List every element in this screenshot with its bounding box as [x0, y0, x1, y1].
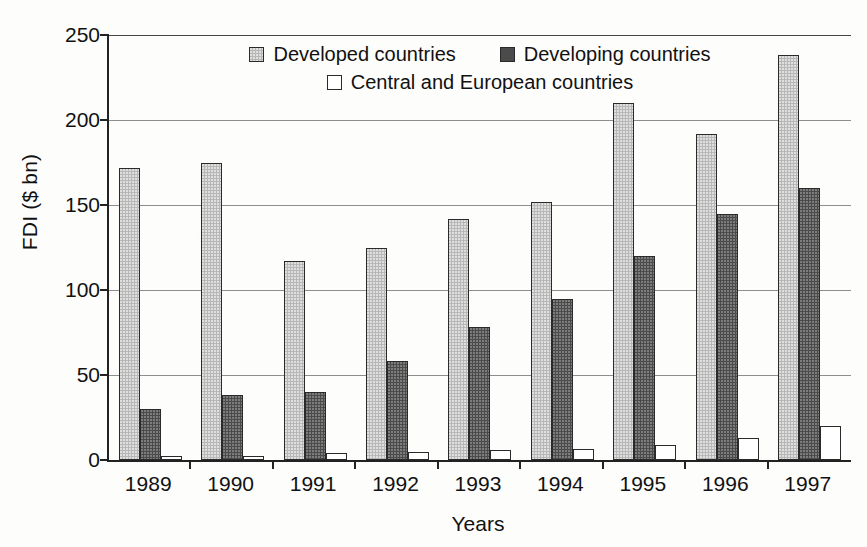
x-axis-tick-label: 1994: [519, 472, 601, 496]
bar-developing-1992: [387, 361, 408, 460]
legend-swatch-developed-icon: [249, 47, 264, 62]
bar-developed-1989: [119, 168, 140, 460]
y-axis-tick-label: 100: [65, 278, 100, 302]
bar-developing-1993: [469, 327, 490, 460]
x-axis-tick-mark: [684, 460, 686, 469]
legend-label: Developed countries: [273, 43, 455, 66]
bar-central-1995: [655, 445, 676, 460]
x-axis-tick-label: 1996: [684, 472, 766, 496]
y-axis-tick-mark: [100, 34, 109, 36]
bar-central-1992: [408, 452, 429, 461]
legend-swatch-central-icon: [327, 75, 342, 90]
bar-developing-1989: [140, 409, 161, 460]
bar-developed-1991: [284, 261, 305, 460]
y-axis-tick-label: 250: [65, 23, 100, 47]
y-axis-tick-label: 150: [65, 193, 100, 217]
bar-developed-1997: [778, 55, 799, 460]
legend-item: Developed countries: [249, 43, 455, 66]
bar-developing-1994: [552, 299, 573, 461]
x-axis-tick-mark: [272, 460, 274, 469]
bar-central-1994: [573, 449, 594, 460]
bar-central-1991: [326, 453, 347, 460]
x-axis-tick-mark: [519, 460, 521, 469]
bar-central-1989: [161, 456, 182, 460]
bar-central-1990: [243, 456, 264, 460]
legend: Developed countriesDeveloping countries …: [109, 43, 851, 99]
x-axis-tick-mark: [767, 460, 769, 469]
bar-central-1996: [738, 438, 759, 460]
y-axis-tick-label: 0: [88, 448, 100, 472]
x-axis-title: Years: [107, 512, 849, 536]
x-axis-tick-label: 1993: [437, 472, 519, 496]
x-axis-tick-label: 1992: [354, 472, 436, 496]
x-axis-tick-labels: 198919901991199219931994199519961997: [107, 472, 849, 496]
bar-developed-1990: [201, 163, 222, 461]
y-axis-tick-mark: [100, 119, 109, 121]
y-axis-tick-mark: [100, 374, 109, 376]
x-axis-tick-mark: [354, 460, 356, 469]
x-axis-tick-mark: [189, 460, 191, 469]
y-axis-title: FDI ($ bn): [18, 102, 42, 302]
y-axis-tick-mark: [100, 459, 109, 461]
x-axis-tick-label: 1990: [189, 472, 271, 496]
bar-developing-1996: [717, 214, 738, 461]
bar-developing-1995: [634, 256, 655, 460]
legend-label: Central and European countries: [351, 71, 633, 94]
bar-developed-1992: [366, 248, 387, 461]
y-axis-tick-label: 200: [65, 108, 100, 132]
bar-central-1997: [820, 426, 841, 460]
bar-developing-1991: [305, 392, 326, 460]
x-axis-tick-label: 1989: [107, 472, 189, 496]
legend-label: Developing countries: [524, 43, 711, 66]
bar-central-1993: [490, 450, 511, 460]
y-axis-tick-mark: [100, 289, 109, 291]
x-axis-tick-label: 1997: [767, 472, 849, 496]
bar-developing-1997: [799, 188, 820, 460]
legend-item: Developing countries: [500, 43, 711, 66]
x-axis-tick-label: 1991: [272, 472, 354, 496]
legend-swatch-developing-icon: [500, 47, 515, 62]
x-axis-tick-label: 1995: [602, 472, 684, 496]
bar-developed-1993: [448, 219, 469, 460]
bar-developed-1994: [531, 202, 552, 460]
y-axis-tick-mark: [100, 204, 109, 206]
legend-row-2: Central and European countries: [109, 71, 851, 94]
legend-item: Central and European countries: [327, 71, 633, 94]
plot-area: 050100150200250 Developed countriesDevel…: [107, 35, 851, 462]
bar-developed-1995: [613, 103, 634, 460]
y-axis-tick-label: 50: [77, 363, 100, 387]
legend-row-1: Developed countriesDeveloping countries: [109, 43, 851, 66]
fdi-bar-chart-figure: FDI ($ bn) 050100150200250 Developed cou…: [0, 0, 867, 547]
bar-developed-1996: [696, 134, 717, 460]
x-axis-tick-mark: [437, 460, 439, 469]
bar-developing-1990: [222, 395, 243, 460]
x-axis-tick-mark: [602, 460, 604, 469]
